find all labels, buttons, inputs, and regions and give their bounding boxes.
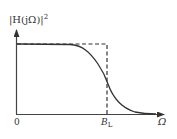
ideal-response-dashed <box>17 44 107 114</box>
cutoff-label: BL <box>100 117 113 129</box>
origin-label: 0 <box>14 117 20 127</box>
y-axis-label: |H(jΩ)|2 <box>9 13 48 26</box>
x-axis-label: Ω <box>157 116 166 127</box>
actual-response-curve <box>17 44 156 114</box>
filter-response-diagram: |H(jΩ)|2 0 BL Ω <box>0 0 177 139</box>
